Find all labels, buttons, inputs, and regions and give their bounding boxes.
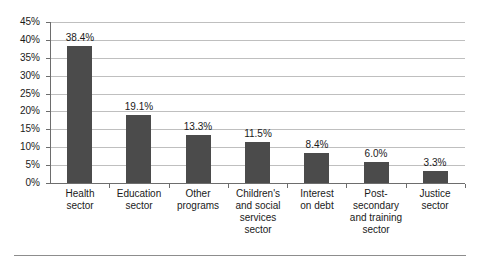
x-axis-category-label-line: Education bbox=[106, 188, 172, 200]
x-axis-category-label: Intereston debt bbox=[284, 188, 350, 212]
x-axis-category-label-line: Justice bbox=[402, 188, 468, 200]
x-axis-category-label-line: Other bbox=[165, 188, 231, 200]
x-axis-category-label-line: Children's bbox=[225, 188, 291, 200]
gridline bbox=[50, 58, 465, 59]
bar-value-label: 13.3% bbox=[168, 122, 228, 132]
x-axis-tick bbox=[465, 184, 466, 188]
bar-value-label: 19.1% bbox=[109, 102, 169, 112]
bar bbox=[245, 142, 270, 183]
y-axis-tick-label: 0% bbox=[0, 178, 40, 188]
x-axis-category-label-line: sector bbox=[47, 200, 113, 212]
x-axis-category-label-line: services bbox=[225, 212, 291, 224]
bar bbox=[423, 171, 448, 183]
x-axis-category-label-line: sector bbox=[343, 224, 409, 236]
y-axis-tick-label: 20% bbox=[0, 106, 40, 116]
x-axis-line bbox=[50, 183, 465, 184]
x-axis-category-label: Educationsector bbox=[106, 188, 172, 212]
gridline bbox=[50, 40, 465, 41]
x-axis-category-label: Healthsector bbox=[47, 188, 113, 212]
bar-value-label: 6.0% bbox=[346, 149, 406, 159]
x-axis-category-label: Children'sand socialservicessector bbox=[225, 188, 291, 236]
y-axis-tick-label: 35% bbox=[0, 53, 40, 63]
x-axis-category-label-line: sector bbox=[402, 200, 468, 212]
x-axis-category-label-line: Health bbox=[47, 188, 113, 200]
bar bbox=[186, 135, 211, 183]
y-axis-tick-label: 30% bbox=[0, 71, 40, 81]
x-axis-category-label: Post-secondaryand trainingsector bbox=[343, 188, 409, 236]
x-axis-category-label: Justicesector bbox=[402, 188, 468, 212]
x-axis-category-label-line: on debt bbox=[284, 200, 350, 212]
bar-value-label: 3.3% bbox=[405, 158, 465, 168]
gridline bbox=[50, 22, 465, 23]
figure-bottom-rule bbox=[14, 255, 466, 256]
x-axis-category-label-line: and social bbox=[225, 200, 291, 212]
bar-value-label: 11.5% bbox=[228, 129, 288, 139]
y-axis-tick-label: 25% bbox=[0, 89, 40, 99]
bar-value-label: 38.4% bbox=[50, 33, 110, 43]
x-axis-category-label-line: sector bbox=[106, 200, 172, 212]
y-axis-tick-label: 40% bbox=[0, 35, 40, 45]
x-axis-category-label-line: Interest bbox=[284, 188, 350, 200]
gridline bbox=[50, 76, 465, 77]
y-axis-tick-label: 5% bbox=[0, 160, 40, 170]
y-axis-tick-label: 10% bbox=[0, 142, 40, 152]
bar-chart: 45%40%35%30%25%20%15%10%5%0% 38.4%19.1%1… bbox=[0, 0, 482, 268]
bar bbox=[364, 162, 389, 183]
y-axis-tick-label: 15% bbox=[0, 124, 40, 134]
bar bbox=[67, 46, 92, 183]
x-axis-category-label-line: Post- bbox=[343, 188, 409, 200]
bar bbox=[126, 115, 151, 183]
x-axis-category-label: Otherprograms bbox=[165, 188, 231, 212]
x-axis-category-label-line: secondary bbox=[343, 200, 409, 212]
x-axis-category-label-line: and training bbox=[343, 212, 409, 224]
y-axis-line bbox=[50, 22, 51, 184]
bar-value-label: 8.4% bbox=[287, 140, 347, 150]
x-axis-category-label-line: sector bbox=[225, 224, 291, 236]
gridline bbox=[50, 94, 465, 95]
x-axis-category-label-line: programs bbox=[165, 200, 231, 212]
bar bbox=[304, 153, 329, 183]
y-axis-tick-label: 45% bbox=[0, 17, 40, 27]
